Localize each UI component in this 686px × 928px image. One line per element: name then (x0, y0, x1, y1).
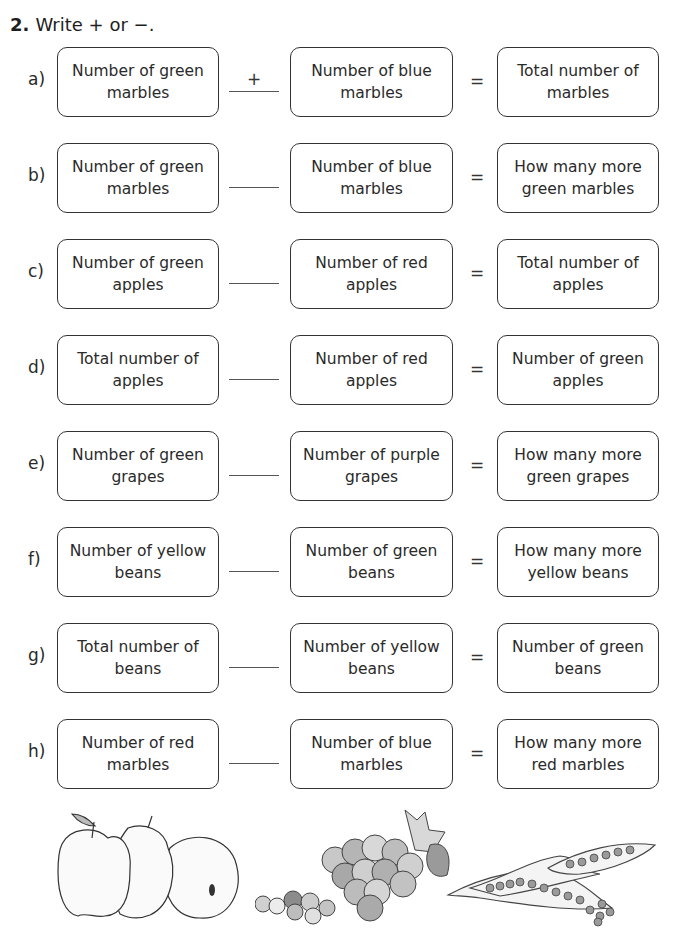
middle-term-box: Number of red apples (290, 239, 453, 309)
apples-icon (50, 800, 250, 928)
equals-sign: = (467, 455, 487, 475)
left-term-box: Number of green grapes (57, 431, 219, 501)
result-box: How many more green marbles (497, 143, 659, 213)
left-term-box: Number of green marbles (57, 143, 219, 213)
equation-row-h: h) Number of red marbles Number of blue … (0, 719, 686, 791)
equation-row-f: f) Number of yellow beans Number of gree… (0, 527, 686, 599)
left-term-box: Number of green marbles (57, 47, 219, 117)
operator-blank[interactable] (229, 571, 279, 572)
result-box: Number of green beans (497, 623, 659, 693)
row-label: f) (28, 549, 54, 569)
left-term-box: Number of yellow beans (57, 527, 219, 597)
result-box: Total number of apples (497, 239, 659, 309)
equals-sign: = (467, 743, 487, 763)
operator-answer: + (229, 69, 279, 89)
row-label: b) (28, 165, 54, 185)
row-label: g) (28, 645, 54, 665)
left-term-box: Number of red marbles (57, 719, 219, 789)
equals-sign: = (467, 647, 487, 667)
question-title: 2.Write + or −. (10, 14, 154, 35)
question-instruction: Write + or −. (35, 14, 154, 35)
middle-term-box: Number of yellow beans (290, 623, 453, 693)
operator-blank[interactable] (229, 475, 279, 476)
result-box: Total number of marbles (497, 47, 659, 117)
equation-row-e: e) Number of green grapes Number of purp… (0, 431, 686, 503)
left-term-box: Number of green apples (57, 239, 219, 309)
left-term-box: Total number of beans (57, 623, 219, 693)
question-number: 2. (10, 14, 29, 35)
operator-blank[interactable] (229, 667, 279, 668)
result-box: How many more yellow beans (497, 527, 659, 597)
equals-sign: = (467, 551, 487, 571)
middle-term-box: Number of green beans (290, 527, 453, 597)
equals-sign: = (467, 263, 487, 283)
equation-row-b: b) Number of green marbles Number of blu… (0, 143, 686, 215)
left-term-box: Total number of apples (57, 335, 219, 405)
grapes-icon (255, 800, 460, 928)
operator-blank[interactable] (229, 379, 279, 380)
result-box: How many more red marbles (497, 719, 659, 789)
row-label: h) (28, 741, 54, 761)
middle-term-box: Number of blue marbles (290, 719, 453, 789)
middle-term-box: Number of red apples (290, 335, 453, 405)
row-label: d) (28, 357, 54, 377)
row-label: a) (28, 69, 54, 89)
operator-blank[interactable] (229, 283, 279, 284)
equation-row-d: d) Total number of apples Number of red … (0, 335, 686, 407)
equals-sign: = (467, 167, 487, 187)
operator-blank[interactable] (229, 91, 279, 92)
middle-term-box: Number of purple grapes (290, 431, 453, 501)
operator-blank[interactable] (229, 763, 279, 764)
row-label: e) (28, 453, 54, 473)
equation-row-a: a) Number of green marbles + Number of b… (0, 47, 686, 119)
middle-term-box: Number of blue marbles (290, 143, 453, 213)
equals-sign: = (467, 359, 487, 379)
equation-row-c: c) Number of green apples Number of red … (0, 239, 686, 311)
result-box: How many more green grapes (497, 431, 659, 501)
middle-term-box: Number of blue marbles (290, 47, 453, 117)
equals-sign: = (467, 71, 487, 91)
equation-row-g: g) Total number of beans Number of yello… (0, 623, 686, 695)
pea-pods-icon (440, 800, 670, 928)
result-box: Number of green apples (497, 335, 659, 405)
row-label: c) (28, 261, 54, 281)
operator-blank[interactable] (229, 187, 279, 188)
